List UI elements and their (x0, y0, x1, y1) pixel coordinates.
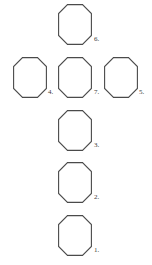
octagon-icon (58, 215, 92, 256)
octagon-icon (58, 4, 92, 45)
octagon-icon (104, 57, 138, 98)
octagon-shape-6[interactable] (58, 4, 92, 45)
shape-number-label: 5. (139, 89, 144, 96)
octagon-shape-3[interactable] (58, 110, 92, 151)
octagon-icon (58, 57, 92, 98)
octagon-icon (58, 162, 92, 203)
octagon-shape-5[interactable] (104, 57, 138, 98)
octagon-icon (13, 57, 47, 98)
octagon-icon (58, 110, 92, 151)
octagon-shape-1[interactable] (58, 215, 92, 256)
shape-number-label: 1. (94, 247, 99, 254)
shape-number-label: 4. (48, 89, 53, 96)
octagon-shape-4[interactable] (13, 57, 47, 98)
octagon-shape-2[interactable] (58, 162, 92, 203)
shape-number-label: 2. (94, 194, 99, 201)
shape-number-label: 3. (94, 142, 99, 149)
worksheet-canvas: 6.4.7.5.3.2.1. (0, 0, 152, 265)
shape-number-label: 6. (94, 36, 99, 43)
shape-number-label: 7. (94, 89, 99, 96)
octagon-shape-7[interactable] (58, 57, 92, 98)
